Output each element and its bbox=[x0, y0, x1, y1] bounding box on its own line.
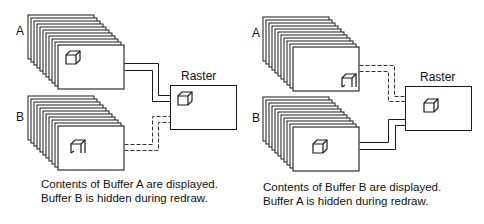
buffer-a-stack bbox=[28, 15, 124, 89]
raster-display bbox=[406, 87, 472, 131]
buffer-b-label: B bbox=[252, 111, 260, 125]
caption-line-2: Buffer B is hidden during redraw. bbox=[41, 192, 208, 204]
left-panel: A B Raster Contents of Buffer A are disp… bbox=[16, 15, 237, 204]
buffer-a-label: A bbox=[252, 26, 260, 40]
double-buffer-diagram: A B Raster Contents of Buffer A are disp… bbox=[0, 0, 484, 224]
raster-label: Raster bbox=[420, 70, 455, 84]
caption-line-1: Contents of Buffer A are displayed. bbox=[41, 178, 218, 190]
cube-complete-icon bbox=[424, 99, 438, 112]
cube-complete-icon bbox=[66, 51, 80, 64]
buffer-a-label: A bbox=[16, 24, 24, 38]
buffer-b-stack bbox=[28, 96, 124, 170]
buffer-b-label: B bbox=[16, 110, 24, 124]
buffer-b-stack bbox=[263, 97, 359, 171]
active-connection bbox=[360, 120, 406, 150]
active-connection bbox=[125, 64, 171, 102]
right-panel: A B Raster Contents of Buffer B are disp… bbox=[252, 17, 472, 207]
raster-display bbox=[171, 86, 237, 130]
cube-complete-icon bbox=[313, 140, 327, 153]
cube-complete-icon bbox=[178, 92, 192, 105]
raster-label: Raster bbox=[181, 69, 216, 83]
inactive-connection bbox=[125, 117, 171, 151]
inactive-connection bbox=[360, 66, 406, 102]
caption-line-2: Buffer A is hidden during redraw. bbox=[263, 195, 428, 207]
buffer-a-stack bbox=[263, 17, 359, 91]
caption-line-1: Contents of Buffer B are displayed. bbox=[263, 181, 441, 193]
